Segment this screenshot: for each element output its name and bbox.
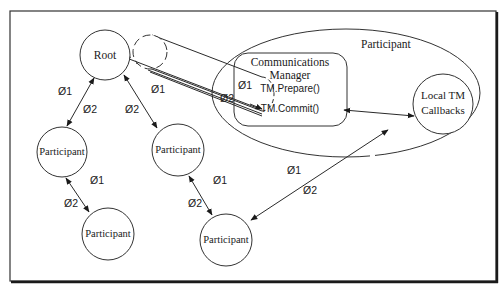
comm-manager-line1: Communications bbox=[251, 56, 330, 68]
label-root-center-phase2: Ø2 bbox=[125, 103, 139, 115]
participant-bottom-center-label: Participant bbox=[203, 234, 249, 245]
edge-center-bottom-center bbox=[189, 176, 212, 215]
label-root-left-phase1: Ø1 bbox=[58, 85, 72, 97]
label-tube-comm-phase2: Ø2 bbox=[220, 92, 234, 104]
label-local-bottom-phase2: Ø2 bbox=[303, 184, 317, 196]
label-root-tube-phase1: Ø1 bbox=[151, 83, 165, 95]
label-left-bottom-phase2: Ø2 bbox=[64, 197, 78, 209]
tm-prepare-method: TM.Prepare() bbox=[260, 83, 319, 94]
comm-manager-line2: Manager bbox=[270, 69, 311, 82]
edge-local-tm-bottom-center bbox=[251, 130, 388, 220]
label-local-bottom-phase1: Ø1 bbox=[287, 164, 301, 176]
diagram-canvas: Participant Root Participant Participant… bbox=[0, 0, 504, 291]
root-label: Root bbox=[94, 49, 117, 61]
label-center-bottom-phase1: Ø1 bbox=[213, 174, 227, 186]
participant-center-label: Participant bbox=[155, 144, 201, 155]
participant-group-label: Participant bbox=[361, 38, 412, 51]
edge-commit-local-tm bbox=[344, 110, 414, 116]
participant-bottom-left-label: Participant bbox=[85, 228, 131, 239]
label-root-left-phase2: Ø2 bbox=[83, 103, 97, 115]
label-center-bottom-phase2: Ø2 bbox=[188, 197, 202, 209]
ghost-root-circle bbox=[133, 35, 167, 69]
label-left-bottom-phase1: Ø1 bbox=[90, 174, 104, 186]
local-tm-line1: Local TM bbox=[421, 89, 465, 101]
local-tm-line2: Callbacks bbox=[421, 104, 464, 116]
label-tube-comm-phase1: Ø1 bbox=[238, 79, 252, 91]
tm-commit-method: TM.Commit() bbox=[261, 103, 319, 114]
participant-left-label: Participant bbox=[39, 146, 85, 157]
